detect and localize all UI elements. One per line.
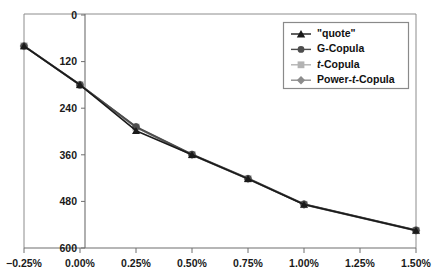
y-tick-label: 360 [59, 149, 77, 161]
chart-container: 6004803602401200 −0.25%0.00%0.25%0.50%0.… [0, 0, 441, 280]
legend-label: "quote" [317, 27, 356, 39]
legend-label: Power-t-Copula [317, 73, 395, 85]
x-tick-label: 1.50% [401, 257, 431, 269]
x-axis-tick-labels: −0.25%0.00%0.25%0.50%0.75%1.00%1.25%1.50… [6, 257, 431, 269]
x-tick-label: 0.00% [65, 257, 95, 269]
line-chart: 6004803602401200 −0.25%0.00%0.25%0.50%0.… [0, 0, 441, 280]
y-tick-label: 480 [59, 195, 77, 207]
y-tick-label: 120 [59, 55, 77, 67]
x-tick-label: 0.25% [121, 257, 151, 269]
legend-label: t-Copula [317, 58, 360, 70]
y-axis-ticks [81, 15, 85, 248]
square-marker [298, 61, 305, 68]
y-axis-tick-labels: 6004803602401200 [59, 9, 77, 254]
legend-label: G-Copula [317, 42, 364, 54]
x-tick-label: 1.25% [345, 257, 375, 269]
y-tick-label: 600 [59, 242, 77, 254]
y-tick-label: 0 [71, 9, 77, 21]
circle-marker [298, 46, 305, 53]
x-tick-label: 0.50% [177, 257, 207, 269]
x-axis-ticks [24, 248, 416, 253]
x-tick-label: −0.25% [6, 257, 43, 269]
x-tick-label: 1.00% [289, 257, 319, 269]
y-tick-label: 240 [59, 102, 77, 114]
x-tick-label: 0.75% [233, 257, 263, 269]
